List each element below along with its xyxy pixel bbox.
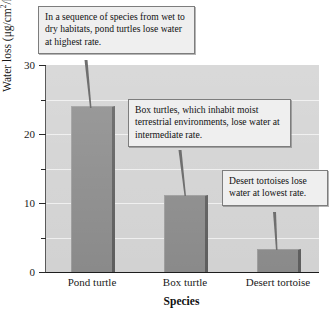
y-axis-title-exponent: 2	[0, 4, 8, 8]
y-tick-minor-25	[41, 100, 46, 101]
y-tick-minor-15	[41, 169, 46, 170]
desert-tortoise-annotation: Desert tortoises lose water at lowest ra…	[222, 170, 328, 206]
y-tick-20: 20	[39, 134, 46, 135]
bar-desert-tortoise[interactable]	[257, 249, 301, 272]
y-tick-minor-5	[41, 238, 46, 239]
box-turtle-annotation: Box turtles, which inhabit moist terrest…	[128, 99, 291, 147]
y-tick-label-20: 20	[24, 126, 35, 142]
pointer-line-desert-tortoise	[268, 212, 284, 252]
bar-pond-turtle[interactable]	[71, 106, 115, 272]
y-tick-30: 30	[39, 65, 46, 66]
y-axis-title-text: Water loss (μg/cm	[1, 8, 13, 92]
x-tick-label-desert-tortoise: Desert tortoise	[231, 276, 325, 288]
x-tick-label-pond-turtle: Pond turtle	[45, 276, 139, 288]
x-axis-title: Species	[45, 295, 318, 307]
x-tick-label-box-turtle: Box turtle	[138, 276, 232, 288]
pointer-line-box-turtle	[176, 150, 192, 198]
y-axis-title: Water loss (μg/cm2/hour)	[0, 0, 13, 92]
y-tick-0: 0	[39, 272, 46, 273]
bar-chart-figure: Water loss (μg/cm2/hour) 30 20 10 0 Pond…	[0, 0, 335, 317]
y-tick-label-30: 30	[24, 57, 35, 73]
y-axis-title-tail: /hour)	[1, 0, 13, 4]
bar-box-turtle[interactable]	[164, 195, 208, 272]
y-tick-10: 10	[39, 203, 46, 204]
pointer-line-pond-turtle	[82, 60, 98, 110]
y-tick-label-10: 10	[24, 195, 35, 211]
pond-turtle-annotation: In a sequence of species from wet to dry…	[38, 6, 195, 54]
y-tick-label-0: 0	[30, 264, 36, 280]
